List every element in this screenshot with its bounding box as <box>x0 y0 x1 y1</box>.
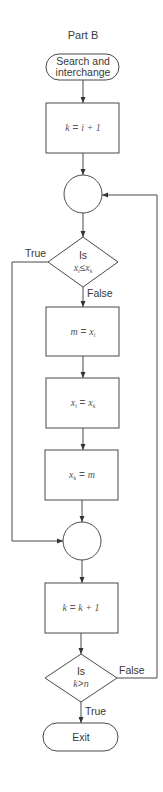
swap3-right: m <box>88 469 95 480</box>
swap1-left: m <box>71 326 78 337</box>
decision-compare-line1: Is <box>79 249 87 261</box>
increment-expr: k + 1 <box>78 602 99 613</box>
arrowhead-icon <box>81 97 86 103</box>
cmp-right-sub: k <box>90 268 93 274</box>
decision-end: Is k>n <box>45 654 117 702</box>
arrowhead-icon <box>57 539 63 544</box>
end-cond-right: n <box>84 678 89 689</box>
decision-end-true-label: True <box>85 705 106 717</box>
swap2-op: = <box>77 397 88 408</box>
process-swap-step2: xi = xk <box>46 378 119 428</box>
decision-end-line1: Is <box>77 665 85 677</box>
start-label-line2: interchange <box>56 66 111 78</box>
decision-compare-false-label: False <box>87 287 113 299</box>
arrowhead-icon <box>81 169 86 175</box>
junction-top-circle <box>64 175 102 213</box>
arrowhead-icon <box>79 717 84 723</box>
diagram-title: Part B <box>68 29 99 41</box>
process-increment-k: k = k + 1 <box>45 583 118 633</box>
svg-text:k>n: k>n <box>73 678 88 689</box>
swap3-op: = <box>76 469 87 480</box>
arrowhead-icon <box>81 231 86 237</box>
svg-text:xk = m: xk = m <box>68 469 95 481</box>
arrowhead-icon <box>102 193 108 198</box>
decision-compare-true-label: True <box>25 247 46 259</box>
arrowhead-icon <box>81 444 86 450</box>
exit-terminator: Exit <box>43 723 118 751</box>
flowchart: Part B Search and interchange k = i + 1 … <box>0 0 163 792</box>
process-swap-step3: xk = m <box>45 450 118 500</box>
init-expr: i + 1 <box>81 122 101 133</box>
arrowhead-icon <box>79 648 84 654</box>
arrowhead-icon <box>81 372 86 378</box>
process-swap-step1: m = xi <box>46 307 119 356</box>
svg-text:xi≤xk: xi≤xk <box>73 262 93 274</box>
swap1-op: = <box>78 326 89 337</box>
swap2-right-sub: k <box>93 403 96 409</box>
arrowhead-icon <box>81 301 86 307</box>
process-init-k: k = i + 1 <box>46 103 119 153</box>
svg-text:k = k + 1: k = k + 1 <box>62 602 99 613</box>
junction-bottom-circle <box>63 522 101 560</box>
increment-op: = <box>67 602 78 613</box>
svg-text:xi = xk: xi = xk <box>70 397 96 409</box>
arrowhead-icon <box>80 577 85 583</box>
svg-text:m = xi: m = xi <box>71 326 96 338</box>
svg-text:k = i + 1: k = i + 1 <box>65 122 100 133</box>
init-op: = <box>70 122 81 133</box>
start-terminator: Search and interchange <box>46 54 119 80</box>
decision-end-false-label: False <box>119 664 145 676</box>
decision-compare: Is xi≤xk <box>48 237 118 287</box>
arrowhead-icon <box>80 516 85 522</box>
exit-label: Exit <box>72 731 90 743</box>
